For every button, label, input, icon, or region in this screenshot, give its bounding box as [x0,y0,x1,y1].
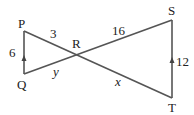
length-label-pr: 3 [50,27,57,40]
length-label-st: 12 [176,55,189,68]
length-label-pq: 6 [9,46,16,59]
segment-qs [24,20,172,74]
parallel-arrow-icon-pq [22,55,27,61]
length-label-qr: y [53,65,59,78]
length-label-rs: 16 [112,24,125,37]
point-label-p: P [18,17,25,30]
point-label-q: Q [17,78,26,91]
parallel-arrow-icon-st [170,57,175,63]
similar-triangles-diagram: P Q R S T 3 16 6 y x 12 [0,0,194,115]
point-label-t: T [168,101,176,114]
segment-pt [24,31,172,98]
length-label-rt: x [115,75,121,88]
point-label-r: R [72,37,81,50]
point-label-s: S [168,4,175,17]
diagram-lines [0,0,194,115]
